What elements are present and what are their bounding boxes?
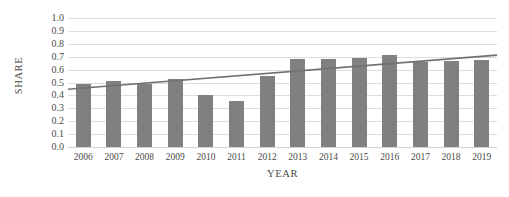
plot-area bbox=[68, 18, 497, 147]
y-tick-label: 0.8 bbox=[30, 39, 64, 49]
x-tick-label: 2015 bbox=[344, 150, 375, 164]
x-tick-label: 2010 bbox=[191, 150, 222, 164]
y-tick-label: 1.0 bbox=[30, 13, 64, 23]
trendline-path bbox=[68, 55, 497, 89]
x-tick-label: 2013 bbox=[283, 150, 314, 164]
y-tick-label: 0.0 bbox=[30, 142, 64, 152]
x-tick-label: 2014 bbox=[313, 150, 344, 164]
y-tick-label: 0.4 bbox=[30, 90, 64, 100]
x-tick-label: 2018 bbox=[436, 150, 467, 164]
x-axis-title: YEAR bbox=[68, 168, 497, 179]
y-tick-label: 0.5 bbox=[30, 78, 64, 88]
trendline bbox=[68, 18, 497, 147]
x-tick-label: 2011 bbox=[221, 150, 252, 164]
x-tick-label: 2006 bbox=[68, 150, 99, 164]
y-tick-label: 0.1 bbox=[30, 129, 64, 139]
x-tick-label: 2017 bbox=[405, 150, 436, 164]
y-tick-label: 0.2 bbox=[30, 116, 64, 126]
x-tick-label: 2019 bbox=[466, 150, 497, 164]
axis-baseline bbox=[68, 147, 497, 148]
y-axis-tick-labels: 1.00.90.80.70.60.50.40.30.20.10.0 bbox=[30, 13, 64, 147]
x-tick-label: 2016 bbox=[374, 150, 405, 164]
y-tick-label: 0.9 bbox=[30, 26, 64, 36]
y-axis-title-label: SHARE bbox=[14, 56, 25, 93]
share-by-year-bar-chart: SHARE 1.00.90.80.70.60.50.40.30.20.10.0 … bbox=[0, 0, 509, 197]
x-tick-label: 2008 bbox=[129, 150, 160, 164]
y-tick-label: 0.6 bbox=[30, 65, 64, 75]
x-axis-tick-labels: 2006200720082009201020112012201320142015… bbox=[68, 150, 497, 166]
y-axis-title: SHARE bbox=[8, 0, 30, 150]
x-tick-label: 2009 bbox=[160, 150, 191, 164]
y-tick-label: 0.7 bbox=[30, 52, 64, 62]
y-tick-label: 0.3 bbox=[30, 103, 64, 113]
x-tick-label: 2007 bbox=[99, 150, 130, 164]
x-tick-label: 2012 bbox=[252, 150, 283, 164]
